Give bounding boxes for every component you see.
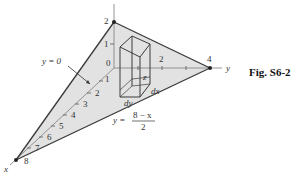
tetrahedron-diagram: 2 4 8 1 0 2 y x 1 2 3 4 5 6 7 z dx dy y …: [0, 0, 305, 175]
y-intercept-label: 4: [207, 54, 212, 64]
origin-label: 0: [106, 58, 111, 68]
x-tick-3: 3: [83, 99, 88, 109]
trace-y0-label: y = 0: [41, 56, 62, 66]
dy-label: dy: [124, 98, 133, 108]
vertex-x: [14, 158, 18, 162]
x-tick-1: 1: [105, 74, 110, 84]
y-tick-2: 2: [159, 54, 164, 64]
x-intercept-label: 8: [24, 156, 29, 166]
trace-line-denominator: 2: [141, 122, 146, 132]
vertex-z: [112, 20, 116, 24]
y-axis-label: y: [225, 63, 230, 73]
height-label: z: [142, 72, 147, 82]
x-tick-7: 7: [35, 143, 40, 153]
trace-line-lhs: y =: [112, 115, 125, 125]
x-tick-5: 5: [59, 121, 64, 131]
x-tick-2: 2: [95, 88, 100, 98]
trace-line-numerator: 8 − x: [133, 110, 152, 120]
figure-caption: Fig. S6-2: [249, 66, 291, 78]
vertex-y: [208, 66, 212, 70]
plane-region: [16, 22, 210, 160]
x-tick-6: 6: [47, 132, 52, 142]
x-axis-label: x: [3, 164, 8, 174]
dx-label: dx: [151, 86, 160, 96]
z-tick-1: 1: [104, 39, 109, 49]
z-intercept-label: 2: [104, 16, 109, 26]
x-tick-4: 4: [71, 110, 76, 120]
